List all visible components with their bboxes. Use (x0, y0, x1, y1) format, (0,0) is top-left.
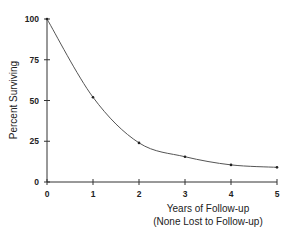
x-tick-label: 0 (45, 189, 50, 199)
data-point (230, 164, 233, 167)
data-point (184, 155, 187, 158)
y-tick-label: 75 (30, 55, 40, 65)
data-point (138, 142, 141, 145)
data-points (46, 18, 279, 169)
survival-curve (47, 19, 277, 167)
y-axis-title: Percent Surviving (8, 61, 19, 139)
data-point (276, 166, 279, 169)
x-tick-label: 5 (275, 189, 280, 199)
x-tick-label: 2 (137, 189, 142, 199)
x-axis-title: Years of Follow-up (167, 203, 250, 214)
data-point (46, 18, 49, 21)
y-ticks: 0255075100 (25, 14, 50, 187)
x-tick-label: 1 (91, 189, 96, 199)
x-axis-subtitle: (None Lost to Follow-up) (153, 216, 263, 227)
y-tick-label: 50 (30, 96, 40, 106)
y-tick-label: 0 (34, 177, 39, 187)
y-tick-label: 25 (30, 136, 40, 146)
data-point (92, 96, 95, 99)
y-tick-label: 100 (25, 14, 39, 24)
x-tick-label: 4 (229, 189, 234, 199)
x-tick-label: 3 (183, 189, 188, 199)
survival-chart: 0255075100 012345 Percent Surviving Year… (0, 0, 292, 239)
